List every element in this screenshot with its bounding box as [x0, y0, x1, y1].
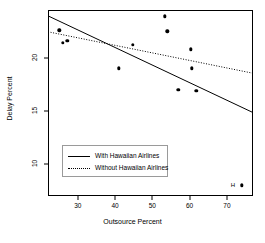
data-point-label-h: H [231, 182, 235, 188]
legend-entry-without-hawaiian: Without Hawaiian Airlines [68, 162, 168, 173]
y-axis-title: Delay Percent [6, 64, 13, 134]
legend-label-with-hawaiian: With Hawaiian Airlines [95, 152, 159, 159]
legend-dotted-line-icon [68, 164, 90, 172]
x-tick-label: 50 [149, 202, 156, 209]
chart-legend: With Hawaiian Airlines Without Hawaiian … [62, 145, 168, 177]
x-tick-mark [115, 196, 116, 200]
y-tick-label: 15 [31, 107, 38, 114]
x-tick-label: 70 [223, 202, 230, 209]
x-tick-mark [189, 196, 190, 200]
y-tick-label: 10 [31, 160, 38, 167]
x-tick-label: 40 [111, 202, 118, 209]
y-tick-mark [44, 57, 48, 58]
y-tick-label: 20 [31, 54, 38, 61]
scatter-plot-figure: H 3040506070 101520 Outsource Percent De… [0, 0, 265, 243]
x-tick-mark [77, 196, 78, 200]
legend-solid-line-icon [68, 152, 90, 160]
x-tick-label: 30 [74, 202, 81, 209]
legend-entry-with-hawaiian: With Hawaiian Airlines [68, 150, 159, 161]
y-tick-mark [44, 164, 48, 165]
x-tick-mark [226, 196, 227, 200]
x-tick-mark [152, 196, 153, 200]
x-axis-title: Outsource Percent [0, 218, 265, 225]
y-tick-mark [44, 110, 48, 111]
x-tick-label: 60 [186, 202, 193, 209]
legend-label-without-hawaiian: Without Hawaiian Airlines [95, 164, 168, 171]
